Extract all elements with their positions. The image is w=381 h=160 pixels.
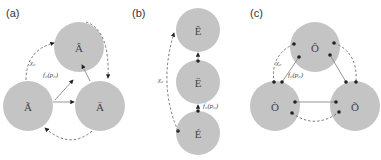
panel-b-chi-annotation: χ₀ <box>157 76 164 84</box>
panel-c-dot <box>344 80 348 84</box>
panel-c-dot <box>328 53 332 57</box>
panel-b-node-bottom-label: É <box>195 128 202 140</box>
panel-a-node-bottom-right-label: Ä <box>96 101 104 113</box>
panel-c-dot <box>293 100 297 104</box>
panel-b-f-annotation: f₀(p₀) <box>203 102 219 110</box>
panel-b: (b) Ê Ë É χ₀ f₀(p₀) <box>132 7 220 155</box>
panel-c-dot <box>332 41 336 45</box>
diagram-canvas: (a) Â Ã Ä χ₀ f₀(p₀) (b) Ê Ë É χ₀ <box>0 0 381 160</box>
panel-a-node-bottom-left-label: Ã <box>24 101 32 113</box>
panel-c-dot <box>272 80 276 84</box>
panel-c-edge-top-bottomright <box>330 55 346 82</box>
panel-a-edge-top-to-bottomleft <box>55 80 73 100</box>
panel-a-label: (a) <box>6 7 19 19</box>
panel-b-label: (b) <box>132 7 145 19</box>
panel-c-chi-annotation: χ₀ <box>275 59 282 67</box>
panel-c-dot <box>292 42 296 46</box>
panel-a-f-annotation: f₀(p₀) <box>43 71 59 79</box>
panel-c-dot <box>297 55 301 59</box>
panel-a-chi-annotation: χ₀ <box>29 59 36 67</box>
panel-c-dot <box>334 100 338 104</box>
panel-a: (a) Â Ã Ä χ₀ f₀(p₀) <box>3 7 125 140</box>
panel-c-label: (c) <box>250 7 263 19</box>
panel-c-node-bottom-left-label: Ò <box>271 101 279 113</box>
panel-a-dashed-bottom <box>45 128 92 140</box>
panel-c: (c) Ô Ò Õ χ₀ f₀(p₀) <box>250 7 380 131</box>
panel-b-node-top-label: Ê <box>195 25 202 37</box>
panel-c-dot <box>337 110 341 114</box>
panel-b-node-middle-label: Ë <box>195 77 202 89</box>
panel-c-dot <box>290 111 294 115</box>
panel-a-node-top-label: Â <box>75 42 83 54</box>
panel-c-f-annotation: f₀(p₀) <box>288 71 304 79</box>
panel-c-dot <box>280 80 284 84</box>
panel-c-node-bottom-right-label: Õ <box>351 101 359 113</box>
panel-c-node-top-label: Ô <box>311 42 319 54</box>
panel-c-dot <box>354 80 358 84</box>
